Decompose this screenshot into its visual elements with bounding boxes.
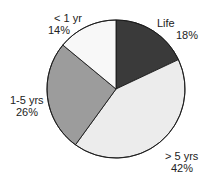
label-under-1-yr-name: < 1 yr: [48, 12, 82, 24]
label-life-name: Life: [157, 17, 198, 29]
label-over-5-yrs-name: > 5 yrs: [165, 150, 198, 162]
label-over-5-yrs-value: 42%: [165, 162, 198, 174]
label-over-5-yrs: > 5 yrs 42%: [165, 150, 198, 174]
label-life: Life 18%: [157, 17, 198, 41]
label-1-5-yrs-value: 26%: [10, 106, 44, 118]
label-1-5-yrs: 1-5 yrs 26%: [10, 94, 44, 118]
label-under-1-yr: < 1 yr 14%: [48, 12, 82, 36]
label-under-1-yr-value: 14%: [48, 24, 82, 36]
label-life-value: 18%: [157, 29, 198, 41]
label-1-5-yrs-name: 1-5 yrs: [10, 94, 44, 106]
